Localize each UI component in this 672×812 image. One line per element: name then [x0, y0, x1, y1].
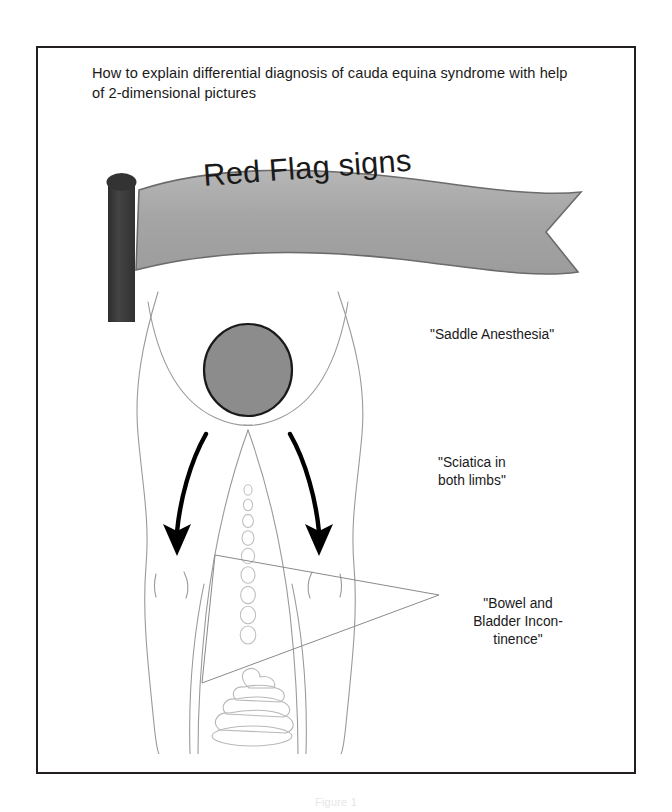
- figure-root: How to explain differential diagnosis of…: [0, 0, 672, 812]
- knee-dimple-left-b: [184, 572, 188, 598]
- body-diagram-graphic: [84, 284, 444, 754]
- incontinence-pointer-triangle: [202, 555, 439, 683]
- callout-sciatica: "Sciatica in both limbs": [438, 454, 506, 490]
- saddle-area-circle: [204, 324, 292, 416]
- leg-contour-left-inner: [190, 584, 204, 754]
- banner-cloth: [136, 170, 581, 274]
- figure-panel: How to explain differential diagnosis of…: [36, 46, 636, 774]
- sciatica-arrow-left: [163, 434, 206, 556]
- callout-bowel-bladder-incontinence: "Bowel and Bladder Incon- tinence": [442, 595, 594, 650]
- knee-dimple-left-a: [155, 574, 157, 597]
- sciatica-arrow-right: [290, 434, 333, 556]
- knee-dimple-right-a: [308, 572, 312, 598]
- stool-shape: [212, 668, 293, 746]
- callout-saddle-anesthesia: "Saddle Anesthesia": [430, 326, 554, 344]
- body-outline-left: [137, 292, 159, 754]
- body-outline-right: [338, 292, 363, 754]
- leg-contour-right-inner: [292, 584, 306, 754]
- body-illustration: [84, 284, 444, 754]
- urine-drop-chain: [240, 485, 256, 644]
- figure-title: How to explain differential diagnosis of…: [92, 64, 578, 103]
- banner-pole-cap-icon: [107, 173, 137, 191]
- figure-bottom-caption: Figure 1: [0, 796, 672, 812]
